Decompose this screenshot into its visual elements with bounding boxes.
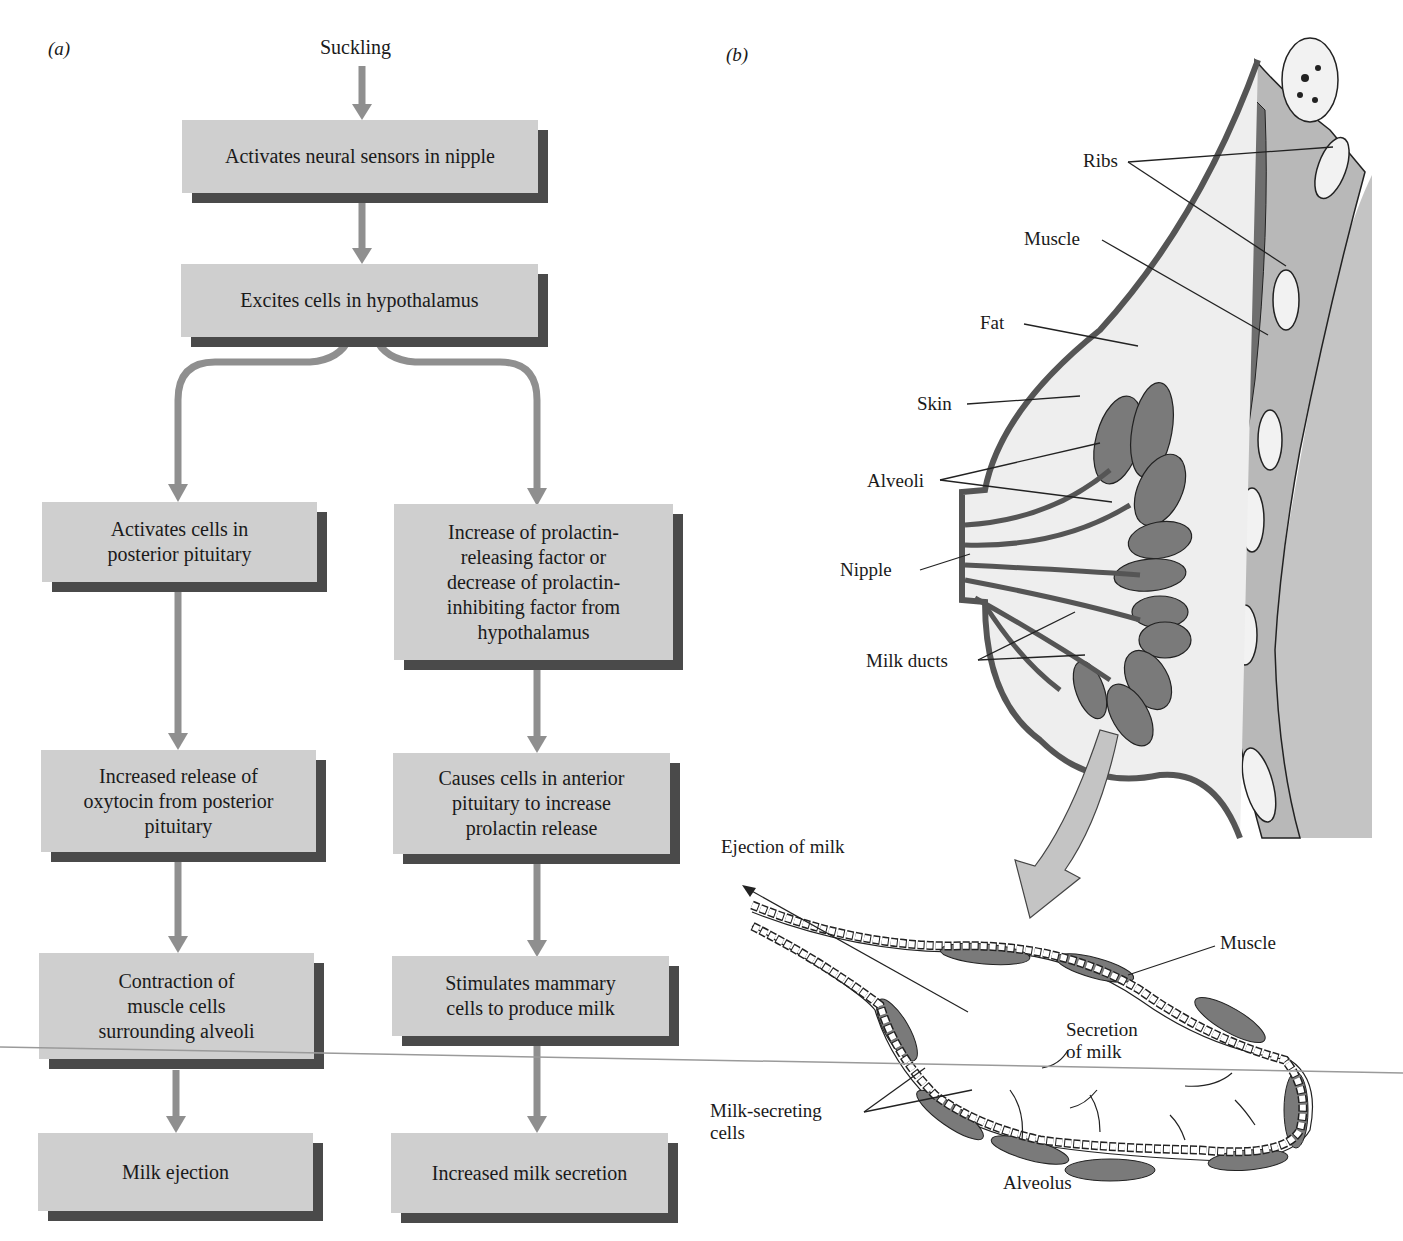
scan-line-artifact [0, 0, 1403, 1241]
